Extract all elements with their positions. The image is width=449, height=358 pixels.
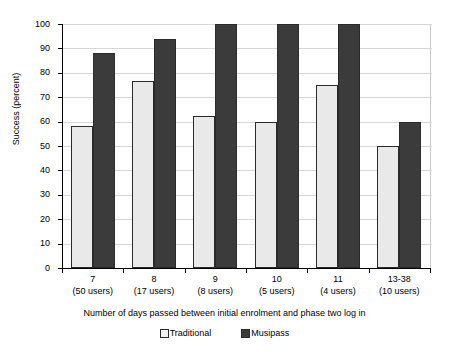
x-axis-tick — [430, 269, 431, 273]
x-axis-category-users: (10 users) — [369, 286, 430, 298]
bar-traditional-2 — [132, 81, 154, 268]
x-axis-category-days: 9 — [185, 274, 246, 286]
bars-layer — [62, 24, 430, 268]
bar-musipass-2 — [154, 39, 176, 268]
x-axis-category-2: 8(17 users) — [123, 274, 184, 297]
x-axis-category-days: 11 — [307, 274, 368, 286]
x-axis-category-5: 11(4 users) — [307, 274, 368, 297]
x-axis-category-days: 10 — [246, 274, 307, 286]
x-axis-category-1: 7(50 users) — [62, 274, 123, 297]
legend-label: Musipass — [251, 329, 289, 338]
dark-square-icon — [241, 329, 250, 338]
bar-musipass-3 — [215, 24, 237, 268]
x-axis-tick — [185, 269, 186, 273]
legend-item-traditional[interactable]: Traditional — [160, 329, 212, 338]
y-axis-tick-label: 70 — [10, 93, 50, 102]
x-axis-category-users: (4 users) — [307, 286, 368, 298]
y-axis-tick-label: 50 — [10, 142, 50, 151]
x-axis-category-6: 13-38(10 users) — [369, 274, 430, 297]
chart-legend: TraditionalMusipass — [0, 329, 449, 338]
x-axis-tick — [62, 269, 63, 273]
y-axis-tick-label: 100 — [10, 20, 50, 29]
y-axis-tick-label: 10 — [10, 239, 50, 248]
bar-musipass-6 — [399, 122, 421, 268]
y-axis-tick-label: 80 — [10, 68, 50, 77]
y-axis-title: Success (percent) — [11, 49, 21, 169]
x-axis-category-3: 9(8 users) — [185, 274, 246, 297]
bar-musipass-1 — [93, 53, 115, 268]
bar-traditional-1 — [71, 126, 93, 268]
x-axis-category-days: 8 — [123, 274, 184, 286]
x-axis-tick — [369, 269, 370, 273]
legend-item-musipass[interactable]: Musipass — [241, 329, 289, 338]
bar-traditional-5 — [316, 85, 338, 268]
x-axis-tick — [307, 269, 308, 273]
x-axis-category-days: 13-38 — [369, 274, 430, 286]
y-axis-tick-label: 40 — [10, 166, 50, 175]
x-axis-category-4: 10(5 users) — [246, 274, 307, 297]
x-axis-category-users: (50 users) — [62, 286, 123, 298]
y-axis-tick-label: 60 — [10, 117, 50, 126]
y-axis-tick-label: 90 — [10, 44, 50, 53]
bar-musipass-5 — [338, 24, 360, 268]
x-axis-title: Number of days passed between initial en… — [0, 308, 449, 318]
x-axis-category-days: 7 — [62, 274, 123, 286]
x-axis-category-users: (5 users) — [246, 286, 307, 298]
bar-traditional-4 — [255, 122, 277, 268]
y-axis-tick-label: 20 — [10, 215, 50, 224]
x-axis-category-users: (17 users) — [123, 286, 184, 298]
y-axis-tick-label: 0 — [10, 264, 50, 273]
legend-label: Traditional — [170, 329, 212, 338]
x-axis-category-users: (8 users) — [185, 286, 246, 298]
bar-chart: Success (percent) 0102030405060708090100… — [0, 0, 449, 358]
light-square-icon — [160, 329, 169, 338]
bar-musipass-4 — [277, 24, 299, 268]
x-axis-tick — [123, 269, 124, 273]
y-axis-tick-label: 30 — [10, 190, 50, 199]
bar-traditional-3 — [193, 116, 215, 269]
bar-traditional-6 — [377, 146, 399, 268]
x-axis-tick — [246, 269, 247, 273]
